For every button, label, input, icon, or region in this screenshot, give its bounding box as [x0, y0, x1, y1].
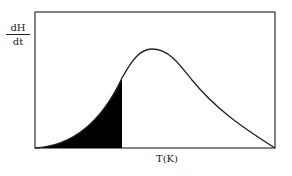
plot-area: [0, 0, 292, 176]
x-axis-label: T(K): [156, 153, 178, 164]
peak-curve: [35, 49, 275, 148]
shaded-area: [35, 78, 122, 148]
plot-frame: [35, 12, 275, 148]
